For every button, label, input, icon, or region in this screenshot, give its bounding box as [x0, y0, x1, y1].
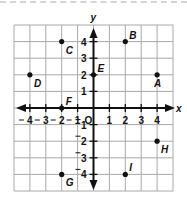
x-tick-label: 4	[27, 115, 33, 126]
x-tick-label: 3	[43, 115, 49, 126]
y-tick-label: 4	[81, 169, 87, 180]
y-tick-label: 3	[81, 153, 87, 164]
y-tick-label: 4	[81, 37, 87, 48]
y-tick-label: 3	[81, 53, 87, 64]
y-tick-label: 1	[81, 86, 87, 97]
point-label-i: I	[129, 162, 132, 173]
coordinate-plane: 4321123443211234 ABCDEFGHI x y O	[0, 0, 187, 202]
x-tick-label: 3	[138, 115, 144, 126]
y-tick-label: 2	[81, 136, 87, 147]
point-label-f: F	[66, 96, 73, 107]
point-f	[59, 105, 64, 110]
origin-label: O	[85, 115, 93, 126]
point-g	[59, 172, 64, 177]
x-tick-label: 4	[154, 115, 160, 126]
point-label-g: G	[66, 177, 74, 188]
point-label-a: A	[153, 78, 161, 89]
y-axis-label: y	[90, 12, 97, 23]
y-axis-arrow-down	[90, 180, 98, 190]
x-tick-label: 2	[59, 115, 65, 126]
point-label-h: H	[161, 144, 169, 155]
point-e	[91, 72, 96, 77]
point-i	[123, 172, 128, 177]
axes	[16, 28, 175, 190]
point-label-b: B	[129, 30, 136, 41]
x-tick-label: 1	[75, 115, 81, 126]
point-label-e: E	[98, 63, 105, 74]
point-label-d: D	[34, 78, 41, 89]
x-tick-label: 1	[107, 115, 113, 126]
x-tick-label: 2	[123, 115, 129, 126]
y-tick-label: 2	[81, 70, 87, 81]
x-axis-arrow-left	[16, 104, 26, 112]
point-d	[27, 72, 32, 77]
point-c	[59, 39, 64, 44]
point-a	[155, 72, 160, 77]
point-h	[155, 139, 160, 144]
point-label-c: C	[66, 45, 74, 56]
x-axis-label: x	[175, 103, 182, 114]
point-b	[123, 39, 128, 44]
y-axis-arrow-up	[90, 28, 98, 38]
